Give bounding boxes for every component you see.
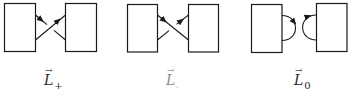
label-subscript: 0: [304, 80, 310, 91]
arrow-icon: [178, 19, 183, 23]
panel-l-plus: [5, 4, 97, 52]
arrow-icon: [55, 19, 60, 23]
tangle-box-right: [189, 5, 219, 53]
arrow-icon: [161, 18, 166, 22]
skein-diagram: [0, 0, 349, 108]
smoothing-arc-left: [282, 16, 296, 41]
smoothing-arc-right: [303, 15, 317, 40]
panel-l-zero: [252, 4, 348, 53]
panel-l-minus: [128, 5, 219, 53]
vector-arrow-icon: →: [295, 66, 303, 75]
tangle-box-left: [128, 5, 158, 53]
vector-arrow-icon: →: [167, 66, 175, 75]
label-l-plus: → L+: [44, 73, 63, 91]
vector-arrow-icon: →: [45, 66, 53, 75]
tangle-box-left: [5, 4, 36, 52]
tangle-box-right: [66, 4, 97, 52]
under-strand-a: [158, 31, 170, 40]
skein-relation-figure: → L+ → L- → L0: [0, 0, 349, 108]
tangle-box-right: [317, 4, 348, 52]
label-subscript: +: [54, 80, 62, 91]
label-l-zero: → L0: [294, 73, 311, 91]
arrow-icon: [38, 17, 43, 21]
label-subscript: -: [176, 83, 178, 91]
arrow-icon: [306, 16, 311, 18]
arrow-icon: [292, 20, 296, 25]
tangle-box-left: [252, 5, 283, 53]
under-strand-b: [54, 30, 66, 40]
label-l-minus: → L-: [166, 73, 179, 91]
